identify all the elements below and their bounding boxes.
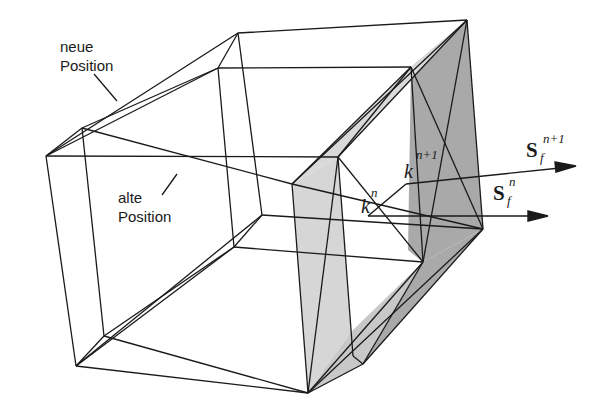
leader-neue [94, 74, 117, 101]
label-s-n: S [493, 181, 505, 205]
label-s-n1: S [526, 138, 538, 162]
label-neue-position: Position [60, 57, 113, 74]
label-neue: neue [60, 38, 93, 55]
cell-displacement-diagram: neue Position alte Position k n k n+1 S … [0, 0, 609, 418]
label-s-n1-sub: f [540, 150, 546, 165]
label-s-n-sup: n [509, 174, 516, 189]
arrowhead-s-f-n [528, 211, 548, 221]
label-alte: alte [118, 189, 142, 206]
label-s-n-sub: f [507, 193, 513, 208]
label-k-n1: k [404, 160, 414, 182]
leader-alte [162, 174, 177, 195]
label-s-n1-sup: n+1 [543, 131, 565, 146]
label-k-n1-sup: n+1 [416, 147, 438, 162]
label-k-n-sup: n [371, 185, 378, 200]
arrowhead-s-f-n1 [555, 162, 576, 172]
label-alte-position: Position [118, 208, 171, 225]
label-k-n: k [361, 195, 371, 217]
